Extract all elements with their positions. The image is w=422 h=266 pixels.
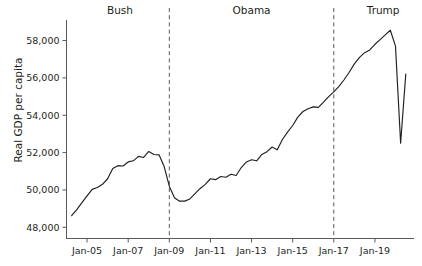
x-tick-label: Jan-09 xyxy=(153,245,184,256)
y-tick-label: 56,000 xyxy=(26,72,59,83)
y-axis-title: Real GDP per capita xyxy=(12,30,24,190)
gdp-series-line xyxy=(72,30,406,215)
x-tick-label: Jan-13 xyxy=(235,245,266,256)
x-tick-label: Jan-15 xyxy=(277,245,308,256)
x-tick-label: Jan-05 xyxy=(71,245,102,256)
x-tick-label: Jan-17 xyxy=(318,245,349,256)
era-label: Trump xyxy=(366,4,400,16)
era-label: Bush xyxy=(107,4,133,16)
era-labels: BushObamaTrump xyxy=(107,4,400,16)
y-tick-label: 54,000 xyxy=(26,110,59,121)
era-label: Obama xyxy=(233,4,271,16)
x-tick-label: Jan-07 xyxy=(112,245,143,256)
y-axis-ticks: 48,00050,00052,00054,00056,00058,000 xyxy=(26,35,66,233)
y-tick-label: 48,000 xyxy=(26,222,59,233)
y-tick-label: 58,000 xyxy=(26,35,59,46)
chart-canvas: 48,00050,00052,00054,00056,00058,000 Jan… xyxy=(0,0,422,266)
era-dividers xyxy=(169,8,333,239)
x-tick-label: Jan-11 xyxy=(194,245,225,256)
x-tick-label: Jan-19 xyxy=(359,245,390,256)
y-tick-label: 50,000 xyxy=(26,184,59,195)
gdp-per-capita-chart: Real GDP per capita 48,00050,00052,00054… xyxy=(0,0,422,266)
x-axis-ticks: Jan-05Jan-07Jan-09Jan-11Jan-13Jan-15Jan-… xyxy=(71,239,390,257)
y-tick-label: 52,000 xyxy=(26,147,59,158)
